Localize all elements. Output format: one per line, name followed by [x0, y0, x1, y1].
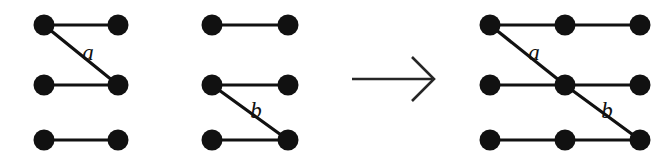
- node-row1-col1: [34, 15, 55, 36]
- node-row2-col2: [555, 75, 576, 96]
- transform-arrow-icon: [352, 57, 434, 101]
- edge-group: [44, 25, 118, 140]
- node-row3-col1: [202, 130, 223, 151]
- diagram-canvas: a b: [0, 0, 672, 165]
- edge-label-a: a: [528, 40, 540, 65]
- edge-label-b: b: [601, 98, 613, 123]
- node-row3-col1: [480, 130, 501, 151]
- first-operand-graph: a: [34, 15, 129, 151]
- node-row1-col3: [630, 15, 651, 36]
- node-row1-col2: [108, 15, 129, 36]
- node-row2-col2: [108, 75, 129, 96]
- node-row3-col2: [108, 130, 129, 151]
- node-row2-col2: [278, 75, 299, 96]
- edge-label-b: b: [250, 98, 262, 123]
- node-row3-col3: [630, 130, 651, 151]
- node-group: [202, 15, 299, 151]
- node-row1-col2: [278, 15, 299, 36]
- node-row2-col1: [480, 75, 501, 96]
- second-operand-graph: b: [202, 15, 299, 151]
- node-row1-col2: [555, 15, 576, 36]
- edge-label-a: a: [82, 40, 94, 65]
- node-row1-col1: [202, 15, 223, 36]
- node-row2-col3: [630, 75, 651, 96]
- graph-concatenation-figure: a b: [0, 0, 672, 165]
- node-row2-col1: [202, 75, 223, 96]
- node-row3-col2: [278, 130, 299, 151]
- node-row3-col1: [34, 130, 55, 151]
- edge-diagonal-a: [44, 25, 118, 85]
- node-group: [34, 15, 129, 151]
- node-row2-col1: [34, 75, 55, 96]
- result-graph: a b: [480, 15, 651, 151]
- node-row1-col1: [480, 15, 501, 36]
- node-row3-col2: [555, 130, 576, 151]
